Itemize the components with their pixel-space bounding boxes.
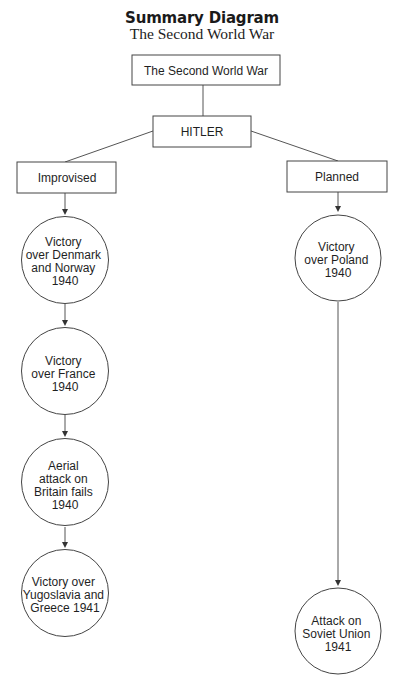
branch-planned-label: Planned [315, 170, 359, 184]
event-yugoslavia-greece: Victory over Yugoslavia and Greece 1941 [22, 550, 109, 637]
event-denmark-norway: Victory over Denmark and Norway 1940 [22, 217, 109, 304]
branch-improvised-label: Improvised [38, 171, 97, 185]
flow-diagram: The Second World War HITLER Improvised P… [0, 0, 404, 697]
event-britain-aerial: Aerial attack on Britain fails 1940 [22, 439, 109, 526]
branch-planned: Planned [287, 161, 387, 192]
arrowhead-icon [62, 542, 68, 548]
arrowhead-icon [62, 320, 68, 326]
arrowhead-icon [62, 209, 68, 215]
root-node-label: The Second World War [144, 64, 268, 78]
leader-node: HITLER [153, 116, 251, 147]
leader-to-planned-line [251, 131, 338, 161]
arrowhead-icon [62, 431, 68, 437]
event-france: Victory over France 1940 [22, 328, 109, 415]
svg-text:Victory over Yugoslavia: Victory over Yugoslavia and Greece 1941 [23, 575, 108, 615]
connectors [62, 85, 341, 586]
branch-improvised: Improvised [17, 162, 116, 193]
arrowhead-icon [335, 580, 341, 586]
leader-to-improvised-line [65, 131, 153, 162]
arrowhead-icon [335, 206, 341, 212]
event-poland: Victory over Poland 1940 [295, 215, 381, 301]
leader-node-label: HITLER [181, 125, 224, 139]
root-node: The Second World War [132, 55, 280, 85]
event-soviet-union: Attack on Soviet Union 1941 [295, 588, 381, 674]
